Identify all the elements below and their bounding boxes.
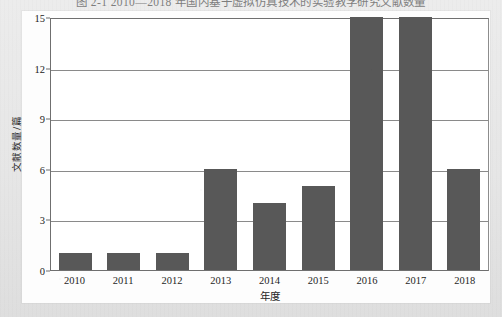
y-axis-tick-label: 15: [8, 13, 50, 24]
x-axis-tick-label: 2017: [391, 273, 440, 289]
x-axis-tick-label: 2013: [196, 273, 245, 289]
bar: [447, 169, 480, 270]
bar: [253, 203, 286, 270]
bar: [350, 17, 383, 270]
bar-series: [51, 19, 488, 270]
y-axis-tick-label: 3: [8, 215, 50, 226]
bar-slot: [51, 19, 100, 270]
bar-chart: 03691215 2010201120122013201420152016201…: [0, 0, 502, 317]
bar-slot: [342, 19, 391, 270]
x-axis-tick-label: 2014: [245, 273, 294, 289]
bar-slot: [294, 19, 343, 270]
bar-slot: [245, 19, 294, 270]
x-axis-title: 年度: [50, 288, 489, 303]
bar: [156, 253, 189, 270]
bar-slot: [197, 19, 246, 270]
bar-slot: [440, 19, 489, 270]
bar-slot: [100, 19, 149, 270]
bar: [302, 186, 335, 270]
y-axis-tick-label: 0: [8, 266, 50, 277]
y-axis: 03691215: [0, 18, 50, 271]
x-axis-tick-label: 2012: [148, 273, 197, 289]
bar: [107, 253, 140, 270]
bar-slot: [148, 19, 197, 270]
x-axis-tick-label: 2011: [99, 273, 148, 289]
bar: [399, 17, 432, 270]
x-axis-tick-labels: 201020112012201320142015201620172018: [50, 273, 489, 289]
bar: [59, 253, 92, 270]
x-axis-tick-label: 2010: [50, 273, 99, 289]
x-axis-tick-label: 2016: [343, 273, 392, 289]
bar-slot: [391, 19, 440, 270]
y-axis-tick-label: 12: [8, 63, 50, 74]
x-axis-tick-label: 2015: [294, 273, 343, 289]
plot-area: [50, 18, 489, 271]
bar: [204, 169, 237, 270]
x-axis-tick-label: 2018: [440, 273, 489, 289]
y-axis-title: 文献数量/篇: [9, 116, 23, 172]
